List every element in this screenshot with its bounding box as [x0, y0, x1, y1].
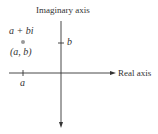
- real-tick-label: a: [20, 78, 25, 88]
- real-axis-label: Real axis: [118, 69, 151, 78]
- imaginary-tick-label: b: [67, 37, 72, 47]
- real-axis-arrow-icon: [110, 71, 116, 75]
- axes-graphic: [0, 0, 158, 134]
- point-a-b: [21, 40, 25, 44]
- point-expression-label: a + bi: [9, 26, 34, 36]
- point-coordinates-label: (a, b): [10, 47, 32, 57]
- imaginary-axis-arrow-icon: [59, 122, 63, 128]
- imaginary-axis-label: Imaginary axis: [36, 6, 90, 15]
- complex-plane-diagram: Imaginary axis Real axis a + bi (a, b) a…: [0, 0, 158, 134]
